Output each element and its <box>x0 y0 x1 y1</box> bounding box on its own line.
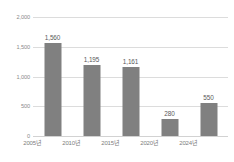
bar-value-label: 1,195 <box>84 56 100 63</box>
bar-group: 550 <box>189 17 228 136</box>
bar-2005[interactable] <box>44 43 61 136</box>
bar-group: 1,560 <box>33 17 72 136</box>
bar-value-label: 280 <box>164 110 174 117</box>
bar-value-label: 1,560 <box>45 34 61 41</box>
y-axis-tick-label: 2,000 <box>0 14 30 20</box>
bars-layer: 1,560 1,195 1,161 280 550 <box>33 17 228 136</box>
bar-2015[interactable] <box>122 67 139 136</box>
gridline-baseline-0 <box>33 136 228 137</box>
bar-2024[interactable] <box>200 103 217 136</box>
bar-2020[interactable] <box>161 119 178 136</box>
bar-group: 1,195 <box>72 17 111 136</box>
x-axis-tick-label-2024: 2024년 <box>166 140 212 147</box>
bar-chart: 2,000 1,500 1,000 500 0 1,560 1,195 1,16… <box>0 0 234 162</box>
bar-value-label: 550 <box>203 94 213 101</box>
bar-group: 1,161 <box>111 17 150 136</box>
bar-value-label: 1,161 <box>123 58 139 65</box>
y-axis-tick-label: 500 <box>0 103 30 109</box>
bar-group: 280 <box>150 17 189 136</box>
y-axis-tick-label: 1,000 <box>0 74 30 80</box>
y-axis-tick-label: 1,500 <box>0 44 30 50</box>
y-axis-tick-label: 0 <box>0 133 30 139</box>
bar-2010[interactable] <box>83 65 100 136</box>
